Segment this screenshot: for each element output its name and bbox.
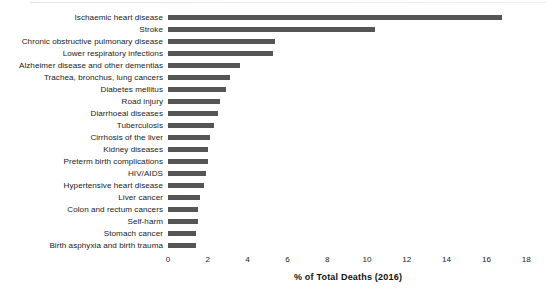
bar-track <box>168 156 550 168</box>
bar <box>168 27 375 32</box>
category-label: Liver cancer <box>0 192 163 204</box>
bar-track <box>168 120 550 132</box>
scan-artifact-line <box>30 2 546 3</box>
x-tick-label: 2 <box>193 254 223 266</box>
category-label: HIV/AIDS <box>0 168 163 180</box>
bar-track <box>168 168 550 180</box>
chart-row: Lower respiratory infections <box>0 48 554 60</box>
x-tick-label: 6 <box>272 254 302 266</box>
bar-track <box>168 72 550 84</box>
chart-row: Chronic obstructive pulmonary disease <box>0 36 554 48</box>
bar <box>168 51 273 56</box>
category-label: Diarrhoeal diseases <box>0 108 163 120</box>
bar-track <box>168 180 550 192</box>
category-label: Trachea, bronchus, lung cancers <box>0 72 163 84</box>
category-label: Birth asphyxia and birth trauma <box>0 240 163 252</box>
bar-track <box>168 228 550 240</box>
category-label: Preterm birth complications <box>0 156 163 168</box>
chart-row: Preterm birth complications <box>0 156 554 168</box>
bar-track <box>168 84 550 96</box>
bar <box>168 15 502 20</box>
bar-track <box>168 60 550 72</box>
chart-row: Tuberculosis <box>0 120 554 132</box>
category-label: Hypertensive heart disease <box>0 180 163 192</box>
bar <box>168 243 196 248</box>
x-axis-title: % of Total Deaths (2016) <box>168 272 528 282</box>
bar-track <box>168 48 550 60</box>
bar-track <box>168 36 550 48</box>
chart-row: Trachea, bronchus, lung cancers <box>0 72 554 84</box>
category-label: Road injury <box>0 96 163 108</box>
chart-row: Road injury <box>0 96 554 108</box>
plot-area: Ischaemic heart diseaseStrokeChronic obs… <box>0 12 554 252</box>
bar <box>168 183 204 188</box>
bar <box>168 99 220 104</box>
chart-row: Stroke <box>0 24 554 36</box>
category-label: Colon and rectum cancers <box>0 204 163 216</box>
category-label: Ischaemic heart disease <box>0 12 163 24</box>
bar <box>168 63 240 68</box>
category-label: Stroke <box>0 24 163 36</box>
bar-track <box>168 144 550 156</box>
category-label: Chronic obstructive pulmonary disease <box>0 36 163 48</box>
bar <box>168 111 218 116</box>
x-tick-label: 8 <box>312 254 342 266</box>
bar-track <box>168 96 550 108</box>
bar <box>168 159 208 164</box>
bar <box>168 171 206 176</box>
category-label: Diabetes mellitus <box>0 84 163 96</box>
chart-row: Diabetes mellitus <box>0 84 554 96</box>
bar-track <box>168 108 550 120</box>
bar-track <box>168 216 550 228</box>
chart-row: Diarrhoeal diseases <box>0 108 554 120</box>
x-tick-label: 16 <box>471 254 501 266</box>
bar-track <box>168 24 550 36</box>
bar-chart: Ischaemic heart diseaseStrokeChronic obs… <box>0 0 554 302</box>
bar-track <box>168 204 550 216</box>
category-label: Self-harm <box>0 216 163 228</box>
bar <box>168 147 208 152</box>
chart-row: HIV/AIDS <box>0 168 554 180</box>
bar <box>168 207 198 212</box>
x-axis-ticks: 024681012141618 <box>0 254 554 270</box>
x-tick-label: 10 <box>352 254 382 266</box>
bar-track <box>168 192 550 204</box>
chart-row: Liver cancer <box>0 192 554 204</box>
chart-row: Cirrhosis of the liver <box>0 132 554 144</box>
bar <box>168 75 230 80</box>
category-label: Alzheimer disease and other dementias <box>0 60 163 72</box>
chart-row: Birth asphyxia and birth trauma <box>0 240 554 252</box>
bar <box>168 135 210 140</box>
chart-row: Hypertensive heart disease <box>0 180 554 192</box>
bar-track <box>168 240 550 252</box>
chart-row: Self-harm <box>0 216 554 228</box>
category-label: Lower respiratory infections <box>0 48 163 60</box>
x-tick-label: 4 <box>233 254 263 266</box>
x-tick-label: 12 <box>392 254 422 266</box>
x-tick-label: 14 <box>432 254 462 266</box>
chart-row: Kidney diseases <box>0 144 554 156</box>
bar <box>168 231 196 236</box>
bar <box>168 195 200 200</box>
x-tick-label: 0 <box>153 254 183 266</box>
chart-row: Alzheimer disease and other dementias <box>0 60 554 72</box>
chart-row: Colon and rectum cancers <box>0 204 554 216</box>
category-label: Stomach cancer <box>0 228 163 240</box>
bar <box>168 123 214 128</box>
bar <box>168 39 275 44</box>
category-label: Cirrhosis of the liver <box>0 132 163 144</box>
category-label: Tuberculosis <box>0 120 163 132</box>
x-tick-label: 18 <box>511 254 541 266</box>
category-label: Kidney diseases <box>0 144 163 156</box>
chart-row: Stomach cancer <box>0 228 554 240</box>
bar-track <box>168 132 550 144</box>
bar-track <box>168 12 550 24</box>
bar <box>168 87 226 92</box>
bar <box>168 219 198 224</box>
chart-row: Ischaemic heart disease <box>0 12 554 24</box>
